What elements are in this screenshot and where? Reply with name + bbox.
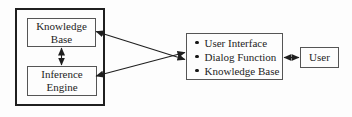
- interface-item-label: Knowledge Base: [205, 64, 280, 78]
- interface-item-label: Dialog Function: [205, 50, 277, 64]
- arrow-ie-interface: [96, 53, 185, 77]
- interface-item-label: User Interface: [205, 36, 268, 50]
- bullet-icon: [195, 41, 199, 45]
- bullet-icon: [195, 55, 199, 59]
- diagram-canvas: Knowledge Base Inference Engine User Int…: [0, 0, 352, 117]
- bullet-icon: [195, 69, 199, 73]
- knowledge-base-label: Knowledge Base: [28, 20, 95, 46]
- user-label: User: [309, 51, 330, 64]
- arrow-kb-interface: [96, 32, 185, 60]
- inference-engine-label: Inference Engine: [28, 68, 96, 94]
- list-item: Dialog Function: [195, 50, 280, 64]
- knowledge-base-node: Knowledge Base: [27, 18, 96, 47]
- interface-node: User Interface Dialog Function Knowledge…: [186, 33, 283, 80]
- user-node: User: [300, 47, 339, 68]
- list-item: Knowledge Base: [195, 64, 280, 78]
- list-item: User Interface: [195, 36, 280, 50]
- inference-engine-node: Inference Engine: [27, 66, 97, 96]
